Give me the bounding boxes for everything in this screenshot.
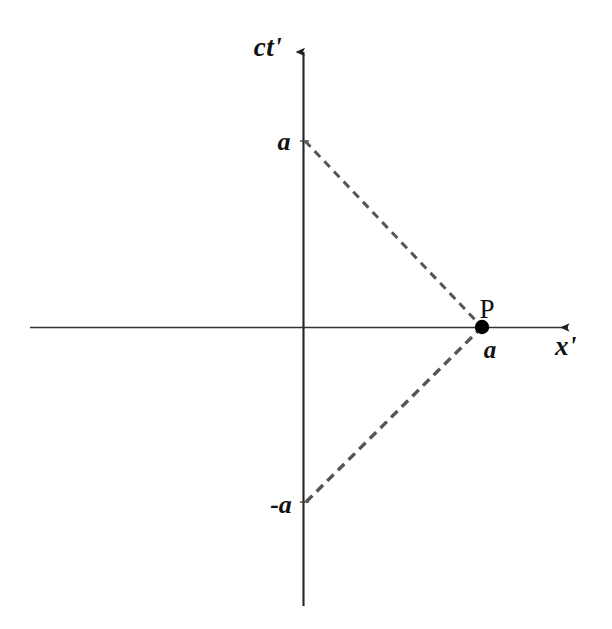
spacetime-diagram-figure: ct' x' a -a P a: [0, 0, 612, 629]
ct-axis-label: ct': [254, 34, 283, 61]
tick-label-negative-a: -a: [270, 492, 292, 518]
dashed-line-lower: [306, 328, 481, 502]
point-P-label: P: [479, 296, 494, 323]
point-P-x-label: a: [484, 337, 497, 362]
dashed-line-upper: [305, 141, 481, 326]
tick-label-positive-a: a: [278, 129, 291, 155]
x-axis-label: x': [555, 333, 577, 360]
diagram-canvas: [0, 0, 612, 629]
